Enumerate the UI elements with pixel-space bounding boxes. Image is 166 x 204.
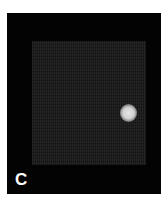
image-panel: C — [7, 13, 161, 194]
fluorescent-spot — [120, 104, 137, 122]
imaging-field — [32, 41, 146, 165]
panel-label: C — [15, 170, 27, 190]
